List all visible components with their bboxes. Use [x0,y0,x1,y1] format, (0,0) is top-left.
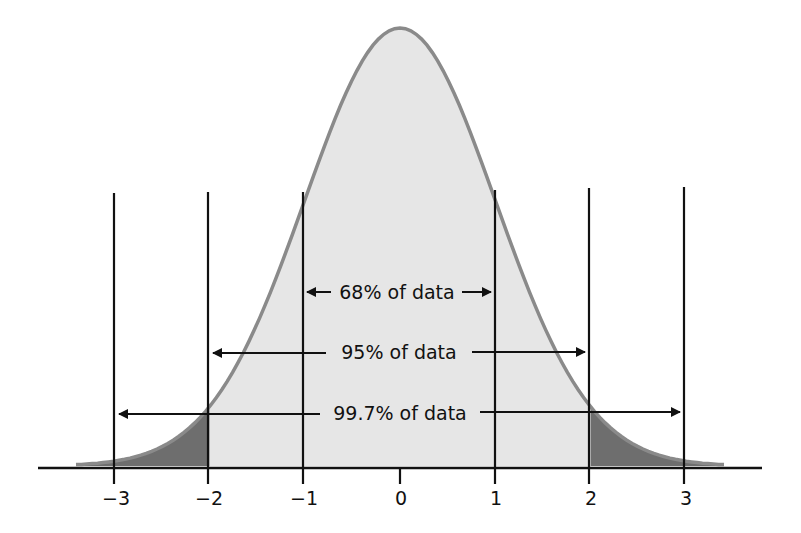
tick-label: 1 [490,487,502,509]
tail-region [591,407,724,466]
central-region [209,28,590,466]
label-99-7: 99.7% of data [333,402,467,424]
tick-label: −1 [290,487,318,509]
tick-label: −3 [102,487,130,509]
shaded-areas [76,28,724,466]
label-95: 95% of data [341,341,456,363]
tick-label: 2 [585,487,597,509]
tick-label: 3 [680,487,692,509]
tail-region [76,407,209,466]
label-68: 68% of data [339,281,454,303]
tick-label: −2 [195,487,223,509]
normal-distribution-chart: −3 −2 −1 0 1 2 3 68% of data 95% of data… [0,0,801,533]
x-tick-labels: −3 −2 −1 0 1 2 3 [102,487,692,509]
tick-label: 0 [395,487,407,509]
